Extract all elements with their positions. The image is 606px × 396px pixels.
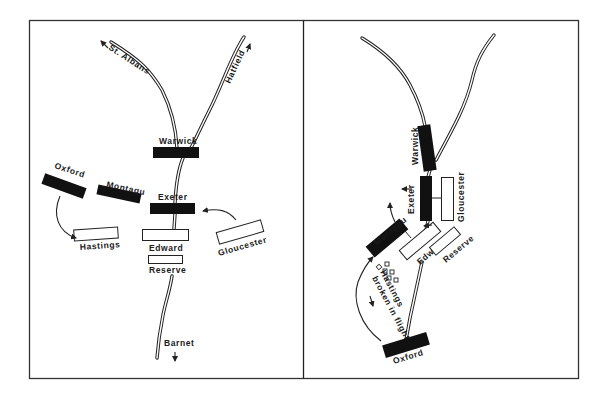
- oxford-return-arrow-icon: [356, 257, 381, 341]
- montagu-advance-arrow-icon: [390, 203, 395, 222]
- left-panel: St. Albans Hatfield Barnet Warwick Exete…: [41, 37, 268, 361]
- label-hastings-left: Hastings: [79, 239, 120, 252]
- unit-warwick-right: [417, 124, 436, 171]
- montagu-edward-link: [405, 231, 411, 238]
- unit-warwick-left: [153, 147, 199, 158]
- unit-reserve-left: [149, 256, 183, 264]
- hastings-flight-arrow-icon: [370, 296, 373, 306]
- unit-edward-left: [143, 230, 189, 241]
- label-warwick-left: Warwick: [159, 136, 197, 146]
- oxford-to-hastings-arrow-icon: [57, 196, 76, 238]
- label-warwick-right: Warwick: [410, 127, 420, 165]
- unit-exeter-left: [150, 203, 195, 214]
- label-edward-left: Edward: [149, 243, 183, 253]
- gloucester-to-exeter-arrow-icon: [203, 210, 236, 220]
- label-oxford-left: Oxford: [53, 160, 86, 179]
- unit-exeter-right: [420, 176, 432, 221]
- label-st-albans: St. Albans: [107, 42, 152, 76]
- right-panel: Warwick Exeter Gloucester Montagu Edward…: [356, 35, 494, 366]
- label-reserve-left: Reserve: [149, 265, 186, 275]
- unit-gloucester-right: [442, 178, 454, 221]
- st-albans-arrow-icon: [101, 41, 108, 48]
- label-gloucester-right: Gloucester: [456, 172, 466, 222]
- label-hatfield: Hatfield: [223, 48, 247, 85]
- label-barnet: Barnet: [164, 338, 195, 348]
- hatfield-arrow-icon: [247, 44, 250, 52]
- battle-map-diagram: St. Albans Hatfield Barnet Warwick Exete…: [0, 0, 606, 396]
- label-exeter-left: Exeter: [158, 192, 188, 202]
